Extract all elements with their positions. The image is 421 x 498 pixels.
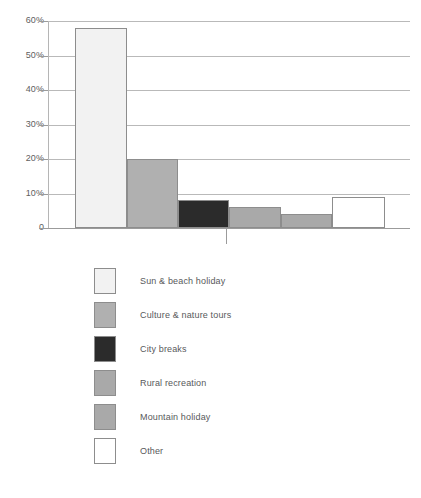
legend-item-label: Mountain holiday [140, 412, 210, 422]
x-axis-baseline [48, 228, 410, 229]
x-axis-tick-mark [226, 229, 227, 244]
legend-swatch-icon [94, 268, 116, 294]
y-axis-tick-mark [39, 56, 48, 57]
bar-5 [332, 197, 385, 228]
bar-2 [178, 200, 229, 228]
legend-swatch-icon [94, 404, 116, 430]
legend-swatch-icon [94, 438, 116, 464]
bar-0 [75, 28, 127, 228]
bar-3 [229, 207, 281, 228]
plot-area [48, 21, 410, 228]
chart-legend: Sun & beach holidayCulture & nature tour… [0, 262, 421, 498]
legend-item-label: Other [140, 446, 163, 456]
bar-4 [281, 214, 332, 228]
legend-item-label: Rural recreation [140, 378, 206, 388]
y-axis-tick-mark [39, 194, 48, 195]
bar-1 [127, 159, 178, 228]
y-axis-tick-mark [39, 228, 48, 229]
legend-item-label: Sun & beach holiday [140, 276, 225, 286]
y-axis-tick-mark [39, 90, 48, 91]
legend-swatch-icon [94, 302, 116, 328]
legend-item-label: City breaks [140, 344, 187, 354]
legend-swatch-icon [94, 370, 116, 396]
gridline [48, 21, 410, 22]
legend-swatch-icon [94, 336, 116, 362]
y-axis-tick-mark [39, 125, 48, 126]
y-axis-tick-mark [39, 21, 48, 22]
y-axis-tick-mark [39, 159, 48, 160]
bar-chart-figure: 60%50%40%30%20%10%0 [0, 0, 421, 256]
legend-item-label: Culture & nature tours [140, 310, 231, 320]
y-axis-labels: 60%50%40%30%20%10%0 [0, 0, 44, 256]
